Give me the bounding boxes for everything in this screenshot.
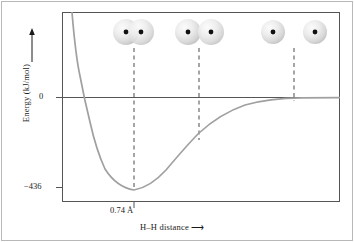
x-axis-title: H–H distance ⟶ (140, 222, 203, 232)
nucleus-right (313, 30, 318, 35)
y-axis-title: Energy (kJ/mol) (21, 23, 31, 163)
y-tick-label-minimum: −436 (24, 181, 42, 191)
plot-canvas (0, 0, 354, 242)
nucleus-left (271, 30, 276, 35)
y-axis-title-text: Energy (kJ/mol) (21, 64, 31, 122)
x-axis-arrow-icon: ⟶ (191, 222, 203, 232)
atom-pair-bonded (113, 19, 154, 45)
x-tick-label-bond-length: 0.74 Å (110, 205, 133, 215)
y-tick-label-zero: 0 (39, 91, 43, 101)
nucleus-right (139, 30, 144, 35)
atom-pair-separated (261, 20, 327, 44)
x-axis-title-text: H–H distance (140, 222, 189, 232)
nucleus-left (186, 30, 191, 35)
h2-potential-energy-figure: Energy (kJ/mol) H–H distance ⟶ 0 −436 0.… (0, 0, 354, 242)
plot-frame (63, 13, 340, 202)
atom-pair-touching (175, 19, 224, 45)
nucleus-left (124, 30, 129, 35)
nucleus-right (209, 30, 214, 35)
